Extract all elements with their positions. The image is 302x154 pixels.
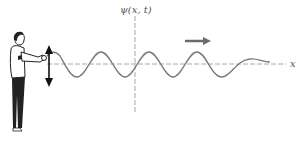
- propagation-arrow-icon: [185, 37, 211, 45]
- wave-diagram: ψ(x, t) x: [0, 0, 302, 154]
- diagram-canvas: [0, 0, 302, 154]
- person-icon: [10, 32, 46, 131]
- x-axis-label: x: [290, 58, 296, 69]
- psi-axis-label: ψ(x, t): [120, 4, 152, 15]
- shake-arrow-icon: [45, 45, 53, 87]
